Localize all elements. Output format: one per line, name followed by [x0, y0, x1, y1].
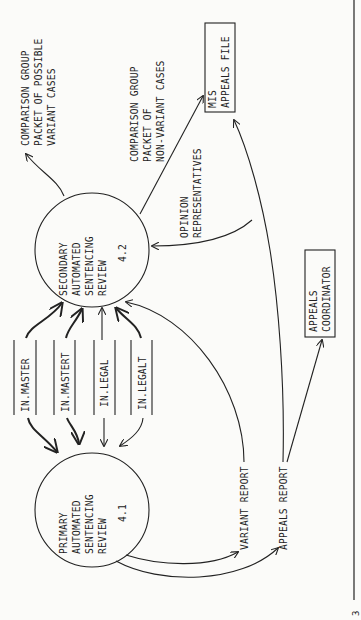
data-store-in-mastert: IN.MASTERT	[54, 340, 75, 415]
data-store-label: IN.LEGAL	[99, 359, 110, 407]
entity-label-line: APPEALS	[308, 290, 319, 332]
flow-label-line: PACKET OF POSSIBLE	[33, 38, 44, 146]
process-label-line: AUTOMATED	[71, 500, 82, 554]
data-store-in-legalt: IN.LEGALT	[131, 340, 152, 415]
flow-label-line: OPINION	[179, 196, 190, 238]
process-label-line: SENTENCING	[84, 494, 95, 554]
data-store-in-master: IN.MASTER	[14, 340, 36, 415]
data-store-in-legal: IN.LEGAL	[94, 340, 115, 415]
page-mark: 3	[351, 611, 361, 616]
process-label-line: REVIEW	[97, 260, 108, 296]
flow-appeals-report: APPEALS REPORT	[116, 120, 322, 577]
data-flow-diagram: 3 SECONDARY AUTOMATED SENTENCING REVIEW …	[0, 0, 361, 620]
process-4-2: SECONDARY AUTOMATED SENTENCING REVIEW 4.…	[35, 193, 149, 307]
store-to-4-2-flows	[26, 303, 141, 340]
flow-label-line: PACKET OF	[142, 108, 153, 162]
flow-label-line: REPRESENTATIVES	[192, 148, 203, 238]
flow-label-line: COMPARISON GROUP	[129, 66, 140, 162]
process-number: 4.2	[117, 244, 128, 262]
process-label-line: REVIEW	[97, 518, 108, 554]
flow-label-line: COMPARISON GROUP	[20, 50, 31, 146]
flow-label: VARIANT REPORT	[239, 466, 250, 550]
entity-label-line: APPEALS FILE	[220, 36, 231, 108]
data-store-label: IN.MASTERT	[60, 352, 71, 412]
store-to-4-1-flows	[28, 418, 143, 452]
entity-appeals-coordinator: APPEALS COORDINATOR	[305, 250, 335, 337]
entity-label-line: MIS	[207, 90, 218, 108]
flow-label-line: VARIANT CASES	[46, 68, 57, 146]
process-number: 4.1	[117, 504, 128, 522]
data-store-label: IN.MASTER	[20, 358, 31, 412]
process-label-line: SECONDARY	[58, 242, 69, 296]
entity-mis-appeals-file: MIS APPEALS FILE	[205, 23, 235, 112]
process-label-line: AUTOMATED	[71, 242, 82, 296]
data-store-label: IN.LEGALT	[137, 356, 148, 410]
process-label-line: PRIMARY	[58, 512, 69, 554]
entity-label-line: COORDINATOR	[321, 266, 332, 332]
process-4-1: PRIMARY AUTOMATED SENTENCING REVIEW 4.1	[35, 453, 149, 567]
flow-label-line: NON-VARIANT CASES	[155, 60, 166, 162]
flow-possible-variant-cases: COMPARISON GROUP PACKET OF POSSIBLE VARI…	[20, 38, 64, 196]
process-label-line: SENTENCING	[84, 236, 95, 296]
flow-variant-report: VARIANT REPORT	[126, 302, 250, 564]
flow-label: APPEALS REPORT	[278, 466, 289, 550]
